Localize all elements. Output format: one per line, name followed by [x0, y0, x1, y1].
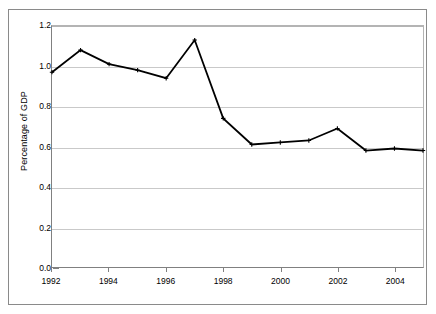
x-tick-label: 1998 — [201, 276, 245, 286]
x-tick-label: 2002 — [316, 276, 360, 286]
data-point-marker — [278, 140, 282, 144]
x-tick-label: 2000 — [259, 276, 303, 286]
y-tick-label: 1.0 — [17, 61, 51, 71]
chart-figure: Percentage of GDP 0.00.20.40.60.81.01.2 … — [0, 0, 436, 314]
x-tick-mark — [166, 268, 167, 272]
y-tick-label: 0.0 — [17, 263, 51, 273]
x-tick-mark — [281, 268, 282, 272]
data-point-marker — [392, 146, 396, 150]
plot-area — [51, 25, 424, 268]
y-axis-ticks: 0.00.20.40.60.81.01.2 — [8, 25, 51, 268]
x-axis-ticks: 1992199419961998200020022004 — [51, 268, 424, 298]
line-series-svg — [52, 26, 423, 267]
y-tick-label: 0.6 — [17, 142, 51, 152]
x-tick-mark — [223, 268, 224, 272]
x-tick-label: 2004 — [373, 276, 417, 286]
series-markers — [50, 38, 425, 153]
x-tick-label: 1996 — [144, 276, 188, 286]
x-tick-mark — [395, 268, 396, 272]
y-tick-label: 0.4 — [17, 182, 51, 192]
x-tick-mark — [108, 268, 109, 272]
y-tick-label: 0.8 — [17, 101, 51, 111]
x-tick-mark — [338, 268, 339, 272]
data-point-marker — [135, 68, 139, 72]
x-tick-label: 1992 — [29, 276, 73, 286]
y-tick-label: 0.2 — [17, 223, 51, 233]
y-tick-label: 1.2 — [17, 20, 51, 30]
x-tick-label: 1994 — [86, 276, 130, 286]
series-line-percentage-of-gdp — [52, 40, 423, 150]
x-tick-mark — [51, 268, 52, 272]
